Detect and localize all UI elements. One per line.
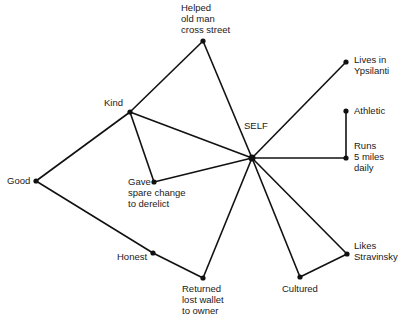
node-cultured	[297, 274, 302, 279]
node-good	[33, 178, 38, 183]
node-lives	[343, 59, 348, 64]
edge-self-gave	[154, 158, 252, 182]
nodes-layer	[33, 38, 349, 280]
node-label-helped: Helpedold mancross street	[181, 2, 230, 35]
edge-cultured-likes	[300, 254, 347, 277]
node-likes	[344, 251, 349, 256]
edge-self-likes	[252, 158, 347, 254]
node-label-athletic: Athletic	[354, 105, 385, 116]
node-label-good: Good	[7, 175, 30, 186]
node-self	[249, 155, 256, 162]
edge-kind-gave	[130, 112, 154, 182]
node-returned	[200, 275, 205, 280]
node-runs	[343, 155, 348, 160]
semantic-network-diagram: SELFHelpedold mancross streetLives inYps…	[0, 0, 403, 317]
edge-self-kind	[130, 112, 252, 158]
edge-honest-returned	[153, 253, 203, 278]
node-gave	[151, 179, 156, 184]
edge-helped-kind	[130, 41, 203, 112]
node-honest	[150, 250, 155, 255]
edges-layer	[36, 41, 347, 278]
node-label-runs: Runs5 milesdaily	[354, 140, 384, 173]
node-label-returned: Returnedlost walletto owner	[182, 283, 224, 316]
edge-self-lives	[252, 62, 346, 158]
node-label-likes: LikesStravinsky	[354, 240, 398, 262]
edge-self-returned	[203, 158, 252, 278]
node-label-cultured: Cultured	[282, 283, 318, 294]
node-kind	[127, 109, 132, 114]
node-label-kind: Kind	[104, 97, 123, 108]
node-label-self: SELF	[244, 120, 268, 131]
edge-self-helped	[203, 41, 252, 158]
edge-self-cultured	[252, 158, 300, 277]
node-helped	[200, 38, 205, 43]
edge-kind-good	[36, 112, 130, 181]
node-label-lives: Lives inYpsilanti	[354, 54, 389, 76]
node-athletic	[343, 108, 348, 113]
node-label-honest: Honest	[117, 251, 147, 262]
